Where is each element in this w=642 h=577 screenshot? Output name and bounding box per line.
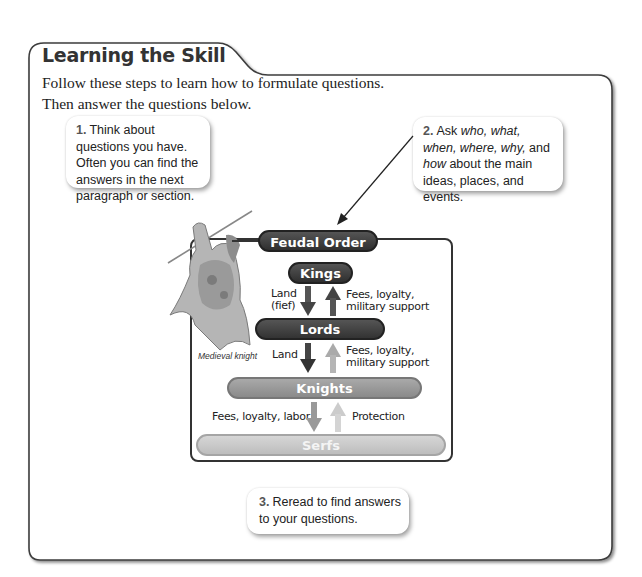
step-3-callout: 3.Reread to find answers to your questio… <box>247 488 409 534</box>
level-lords: Lords <box>255 318 385 340</box>
medieval-knight-image <box>160 205 260 355</box>
flow-1-down-label: Land (fief) <box>271 288 297 312</box>
section-title: Learning the Skill <box>42 44 226 66</box>
arrow-up-icon <box>325 286 341 316</box>
flow-2-down-label: Land <box>272 349 298 361</box>
level-kings: Kings <box>288 262 353 284</box>
arrow-up-icon <box>325 343 341 373</box>
step-1-text: Think about questions you have. Often yo… <box>76 123 198 203</box>
flow-2-up-line-2: military support <box>346 357 429 369</box>
step-2-number: 2. <box>423 124 433 138</box>
diagram-title: Feudal Order <box>258 230 378 252</box>
flow-2-up-label: Fees, loyalty, military support <box>346 345 429 369</box>
level-knights: Knights <box>227 377 422 399</box>
step-2-callout: 2.Ask who, what, when, where, why, and h… <box>413 117 563 191</box>
knight-caption: Medieval knight <box>198 351 257 361</box>
step-3-number: 3. <box>259 495 269 509</box>
arrow-down-icon <box>300 343 316 373</box>
arrow-up-icon <box>330 402 346 432</box>
step-2-text-and: and <box>526 141 550 155</box>
step-1-callout: 1.Think about questions you have. Often … <box>66 116 210 188</box>
intro-line-1: Follow these steps to learn how to formu… <box>42 72 384 93</box>
step-2-text-ask: Ask <box>436 124 460 138</box>
arrow-down-icon <box>306 402 322 432</box>
flow-3-down-label: Fees, loyalty, labor <box>212 411 310 423</box>
level-serfs: Serfs <box>196 434 446 456</box>
flow-1-up-line-2: military support <box>346 301 429 313</box>
intro-line-2: Then answer the questions below. <box>42 93 384 114</box>
flow-1-up-label: Fees, loyalty, military support <box>346 289 429 313</box>
step-1-number: 1. <box>76 123 86 137</box>
step-2-text-where: where, why, <box>460 141 526 155</box>
arrow-down-icon <box>300 286 316 316</box>
flow-3-up-label: Protection <box>352 411 405 423</box>
section-intro: Follow these steps to learn how to formu… <box>42 72 384 114</box>
step-3-text: Reread to find answers to your questions… <box>259 495 401 526</box>
flow-1-down-line-2: (fief) <box>271 300 297 312</box>
step-2-text-how: how <box>423 157 446 171</box>
